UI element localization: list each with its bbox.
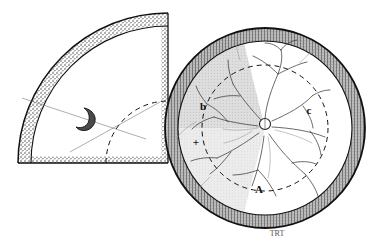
artist-signature: TRT	[270, 229, 285, 238]
label-a: A	[255, 183, 263, 195]
label-plus: +	[193, 136, 199, 148]
figure-canvas: b + c A TRT	[0, 0, 369, 250]
figure-root: b + c A TRT	[0, 0, 369, 250]
magnified-quadrant-wedge	[18, 13, 168, 163]
full-circular-fundus-view: b + c A	[165, 28, 365, 228]
label-b: b	[200, 100, 206, 112]
optic-disc	[260, 119, 271, 130]
label-c: c	[307, 104, 312, 116]
